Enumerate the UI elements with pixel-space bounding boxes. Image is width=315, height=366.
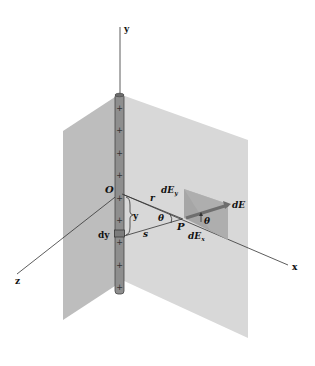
plus-charge: + xyxy=(116,216,123,225)
plus-charge: + xyxy=(116,149,123,158)
plus-charge: + xyxy=(116,238,123,247)
rod-top xyxy=(115,93,124,97)
dy-label: dy xyxy=(98,230,110,240)
dy-element xyxy=(115,230,125,237)
plus-charge: + xyxy=(116,126,123,135)
point-label: P xyxy=(176,221,185,232)
z-axis-label: z xyxy=(15,276,20,286)
plane-zy xyxy=(63,95,118,320)
plus-charge: + xyxy=(116,171,123,180)
plus-charge: + xyxy=(116,261,123,270)
dEy-main: dE xyxy=(161,185,174,195)
x-axis-label: x xyxy=(292,262,298,272)
theta-left-label: θ xyxy=(158,213,164,223)
theta-right-label: θ xyxy=(204,216,210,226)
charge-signs: +++++++++ xyxy=(116,104,123,292)
s-label: s xyxy=(143,229,148,239)
y-distance-label: y xyxy=(132,211,139,221)
origin-label: O xyxy=(105,184,114,195)
dEx-main: dE xyxy=(188,231,201,241)
plus-charge: + xyxy=(116,194,123,203)
dEy-sub: y xyxy=(173,189,178,197)
line-charge-diagram: +++++++++ y x z O P r s y dy θ θ dE dEy … xyxy=(0,0,315,366)
plus-charge: + xyxy=(116,104,123,113)
y-axis-label: y xyxy=(123,24,130,34)
dE-label: dE xyxy=(232,200,245,210)
plus-charge: + xyxy=(116,283,123,292)
dEx-sub: x xyxy=(200,235,205,242)
